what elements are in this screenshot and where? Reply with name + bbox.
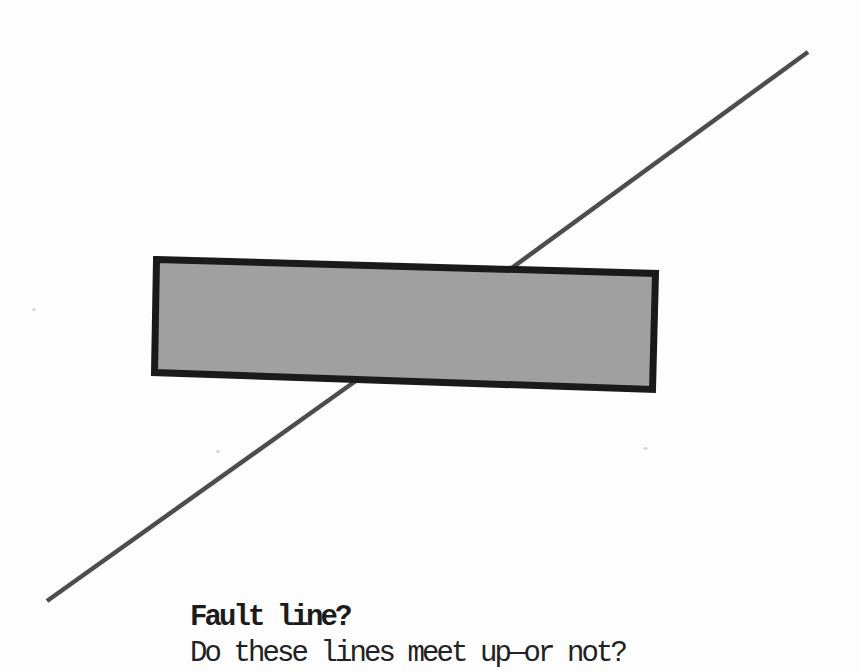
scanned-page: { "page": { "background": "#fdfdfd" }, "… — [0, 0, 859, 671]
diagonal-line-upper — [498, 52, 808, 278]
scan-speck — [643, 447, 648, 450]
diagonal-line-lower — [47, 380, 357, 601]
caption-title: Fault line? — [190, 601, 625, 634]
illusion-figure — [0, 0, 859, 671]
scan-speck — [216, 450, 220, 453]
figure-caption: Fault line? Do these lines meet up—or no… — [190, 601, 625, 670]
illusion-canvas — [0, 0, 859, 671]
occluder-rectangle — [155, 260, 656, 390]
scan-speck — [32, 308, 36, 311]
caption-question: Do these lines meet up—or not? — [190, 637, 625, 670]
